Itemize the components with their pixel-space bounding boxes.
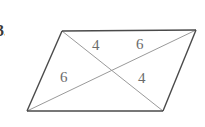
- segment-label-bottom-left: 6: [60, 70, 68, 85]
- geometry-figure: 3. 4 6 6 4: [0, 0, 205, 127]
- diagonal-top-left-to-bottom-right: [62, 31, 163, 111]
- edge-left: [27, 31, 62, 111]
- edge-right: [163, 30, 196, 111]
- segment-label-top-right: 6: [136, 37, 144, 52]
- segment-label-bottom-right: 4: [138, 71, 146, 86]
- segment-label-top-left: 4: [92, 38, 100, 53]
- edge-top: [62, 30, 196, 31]
- diagonal-bottom-left-to-top-right: [27, 30, 196, 111]
- parallelogram-diagram: [0, 0, 205, 127]
